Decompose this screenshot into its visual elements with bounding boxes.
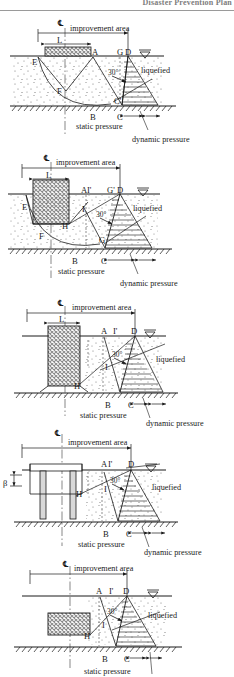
width-label-2: L <box>46 170 51 180</box>
figure-2: ℄ improvement area L <box>0 150 234 288</box>
point-label-2-8: G <box>99 235 105 245</box>
figure-4: ℄ improvement area β <box>0 426 234 556</box>
improvement-area-label-2: improvement area <box>56 158 116 167</box>
static-pressure-label-4: static pressure <box>78 540 125 549</box>
bedrock-hatch-4 <box>16 522 176 527</box>
static-pressure-label-1: static pressure <box>76 122 123 131</box>
improvement-block-1 <box>45 47 91 56</box>
point-label-1-5: C' <box>114 96 122 106</box>
point-label-1-6: B <box>90 112 96 122</box>
page-header: Disaster Prevention Plan <box>0 0 234 12</box>
angle-label-5: 30° <box>107 607 117 616</box>
point-label-2-6: I <box>82 204 85 214</box>
improvement-area-label-4: improvement area <box>68 438 128 447</box>
bedrock-hatch-2 <box>10 249 170 254</box>
point-label-1-7: C <box>117 112 123 122</box>
bedrock-hatch-3 <box>16 393 176 398</box>
bedrock-hatch-1 <box>12 106 172 111</box>
figure-page: Disaster Prevention Plan <box>0 0 234 677</box>
point-label-5-2: D <box>123 586 129 596</box>
running-title: Disaster Prevention Plan <box>143 0 232 7</box>
centerline-symbol-1: ℄ <box>57 19 64 28</box>
bedrock-hatch-5 <box>16 647 176 652</box>
water-table-icon-2 <box>137 188 149 196</box>
centerline-symbol-4: ℄ <box>54 429 61 438</box>
point-label-5-5: B <box>102 654 108 664</box>
centerline-symbol-3: ℄ <box>57 299 64 308</box>
static-pressure-label-2: static pressure <box>58 267 105 276</box>
point-label-5-4: I <box>102 620 105 630</box>
dynamic-pressure-label-1: dynamic pressure <box>132 135 190 144</box>
liquefied-label-2: liquefied <box>133 204 162 213</box>
header-rule <box>0 10 234 11</box>
point-label-4-0: A <box>101 459 108 469</box>
figure-3: ℄ improvement area L <box>0 296 234 426</box>
angle-label-2: 30° <box>96 210 106 219</box>
point-label-2-10: C <box>101 256 107 266</box>
point-label-3-6: C <box>128 400 134 410</box>
point-label-4-5: B <box>103 529 109 539</box>
improvement-area-label-3: improvement area <box>72 303 132 312</box>
point-label-4-2: D <box>128 459 134 469</box>
point-label-3-4: I <box>105 362 108 372</box>
point-label-2-5: H <box>62 221 68 231</box>
figure-1: ℄ improvement area L <box>0 16 234 144</box>
point-label-5-1: I' <box>109 586 114 596</box>
angle-label-3: 30° <box>112 350 122 359</box>
point-label-1-0: E <box>32 57 37 67</box>
centerline-symbol-2: ℄ <box>43 154 50 163</box>
point-label-3-2: D <box>131 326 137 336</box>
water-table-icon-5 <box>147 590 159 598</box>
improvement-block-3 <box>48 326 80 386</box>
point-label-1-1: A <box>92 47 99 57</box>
point-label-2-3: D <box>117 185 123 195</box>
point-label-1-4: F <box>57 86 62 96</box>
point-label-5-0: A <box>96 586 103 596</box>
point-label-4-1: I' <box>108 459 113 469</box>
point-label-2-1: I' <box>87 185 92 195</box>
figure-5: ℄ improvement area <box>0 556 234 677</box>
dynamic-pressure-label-2: dynamic pressure <box>120 279 178 288</box>
pile-left-4 <box>40 471 46 519</box>
point-label-4-4: I <box>104 484 107 494</box>
liquefied-label-5: liquefied <box>148 611 177 620</box>
point-label-1-3: D <box>125 47 131 57</box>
point-label-3-5: B <box>105 400 111 410</box>
liquefied-label-1: liquefied <box>141 66 170 75</box>
point-label-2-4: E <box>22 202 27 212</box>
water-table-icon-1 <box>139 50 151 58</box>
point-label-3-0: A <box>101 326 108 336</box>
point-label-2-7: F <box>39 231 44 241</box>
liquefied-label-3: liquefied <box>156 355 185 364</box>
point-label-1-2: G <box>117 47 123 57</box>
beta-label-4: β <box>3 478 7 488</box>
point-label-4-6: C <box>126 529 132 539</box>
liquefied-label-4: liquefied <box>152 483 181 492</box>
point-label-3-3: H <box>74 381 80 391</box>
point-label-3-1: I' <box>113 326 118 336</box>
width-label-3: L <box>59 314 64 324</box>
centerline-symbol-5: ℄ <box>62 560 69 569</box>
point-label-2-9: B <box>72 256 78 266</box>
point-label-5-6: C <box>124 654 130 664</box>
point-label-4-3: H <box>76 489 82 499</box>
static-pressure-label-5: static pressure <box>84 667 131 676</box>
improvement-area-label-1: improvement area <box>70 24 130 33</box>
angle-label-1: 30° <box>108 68 118 77</box>
deck-slab-4 <box>30 464 82 471</box>
static-pressure-label-3: static pressure <box>80 411 127 420</box>
liquefied-soil-5 <box>88 597 166 645</box>
point-label-5-3: H <box>84 631 90 641</box>
water-table-icon-3 <box>144 330 156 338</box>
point-label-2-2: G' <box>107 185 115 195</box>
improvement-area-label-5: improvement area <box>74 564 134 573</box>
width-label-1: L <box>57 35 62 45</box>
angle-label-4: 30° <box>110 476 120 485</box>
